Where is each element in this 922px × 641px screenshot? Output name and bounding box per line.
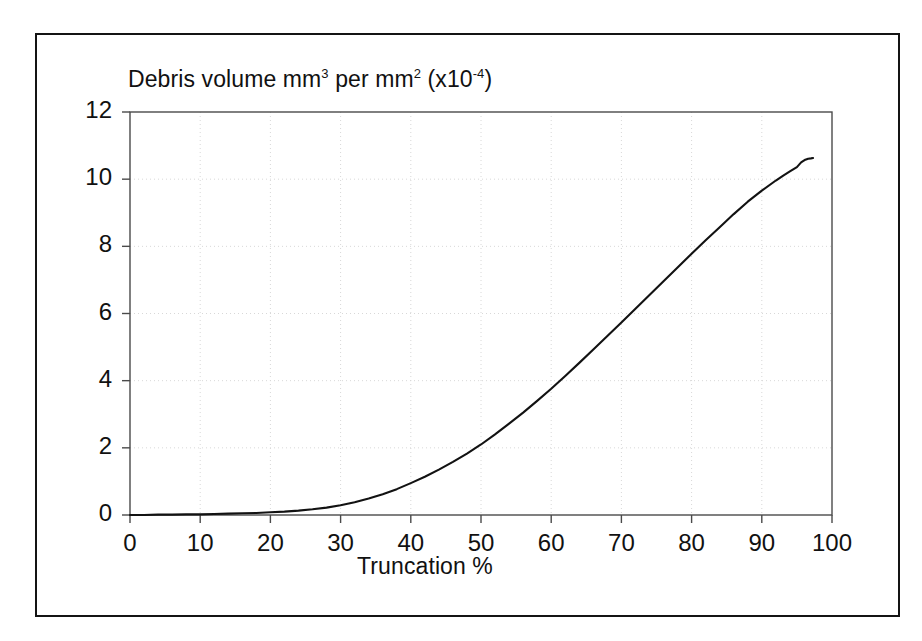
x-tick-label: 90 [732,529,792,557]
x-tick-label: 60 [521,529,581,557]
x-tick-label: 70 [591,529,651,557]
x-tick-label: 100 [802,529,862,557]
data-line-series-0 [130,158,813,515]
x-tick-label: 0 [100,529,160,557]
y-tick-label: 2 [72,432,112,460]
gridlines [130,112,832,515]
axis-ticks [122,112,832,523]
y-tick-label: 4 [72,365,112,393]
y-tick-label: 0 [72,499,112,527]
y-tick-label: 6 [72,298,112,326]
y-tick-label: 10 [72,163,112,191]
x-tick-label: 80 [662,529,722,557]
data-series-group [130,158,813,515]
x-tick-label: 10 [170,529,230,557]
x-tick-label: 20 [240,529,300,557]
y-tick-label: 8 [72,230,112,258]
x-tick-label: 30 [311,529,371,557]
chart-canvas: Debris volume mm3 per mm2 (x10-4) Trunca… [0,0,922,641]
x-tick-label: 50 [451,529,511,557]
x-tick-label: 40 [381,529,441,557]
y-tick-label: 12 [72,96,112,124]
